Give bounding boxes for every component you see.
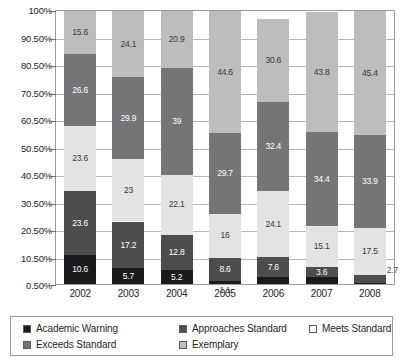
bar-segment[interactable]: 23.6 <box>64 191 96 255</box>
y-axis-tick-mark <box>49 176 56 177</box>
bar-segment-value-label: 44.6 <box>217 68 233 77</box>
x-axis-tick-label: 2004 <box>161 288 193 299</box>
bar-segment-value-label: 15.6 <box>72 28 88 37</box>
bar-segment[interactable]: 30.6 <box>257 19 289 103</box>
legend-swatch-icon <box>23 341 31 349</box>
bar-segment-value-label: 43.8 <box>314 68 330 77</box>
bar-segment[interactable]: 24.1 <box>112 11 144 77</box>
bar-segment[interactable]: 7.6 <box>257 257 289 278</box>
bar-segment[interactable]: 15.6 <box>64 11 96 54</box>
y-axis-tick-label: 100% <box>29 5 53 16</box>
bar-segment[interactable]: 29.9 <box>112 77 144 159</box>
bar-segment-value-label: 33.9 <box>362 177 378 186</box>
y-axis-tick-label: 30.50% <box>21 197 52 208</box>
bar-segment[interactable]: 20.9 <box>161 11 193 68</box>
bar-segment[interactable]: 23.6 <box>64 126 96 190</box>
y-axis-tick-label: 60.50% <box>21 115 52 126</box>
bar-segment[interactable]: 43.8 <box>306 12 338 132</box>
bar-segment[interactable]: 44.6 <box>209 11 241 133</box>
legend-swatch-icon <box>179 325 187 333</box>
bar-segment[interactable] <box>257 277 289 284</box>
legend-item-label: Approaches Standard <box>192 323 287 334</box>
bar-segment-value-label: 5.2 <box>171 273 182 282</box>
bar-segment-value-label: 24.1 <box>121 40 137 49</box>
bar-segment[interactable]: 45.4 <box>354 11 386 135</box>
y-axis-tick-label: 70.50% <box>21 87 52 98</box>
bar-segment[interactable]: 12.8 <box>161 235 193 270</box>
bar-column[interactable]: 5.717.22329.924.1 <box>112 11 144 284</box>
y-axis-tick-mark <box>49 66 56 67</box>
y-axis-tick-mark <box>49 259 56 260</box>
bar-segment-value-label: 17.5 <box>362 247 378 256</box>
x-axis-tick-label: 2008 <box>354 288 386 299</box>
bar-segment-value-label: 32.4 <box>265 142 281 151</box>
bar-segment-value-label: 8.6 <box>219 265 230 274</box>
bar-segment[interactable]: 39 <box>161 68 193 174</box>
bar-segment-value-label: 12.8 <box>169 248 185 257</box>
bar-segment[interactable] <box>306 277 338 284</box>
y-axis-tick-label: 50.50% <box>21 142 52 153</box>
legend-item[interactable]: Exemplary <box>179 339 238 350</box>
bar-segment-value-label: 10.6 <box>72 265 88 274</box>
bar-segment[interactable]: 23 <box>112 159 144 222</box>
bar-segment[interactable]: 17.5 <box>354 228 386 276</box>
bar-segment-value-label: 23.6 <box>72 154 88 163</box>
bar-outside-value-label: 1.1 <box>209 285 241 295</box>
bar-segment-value-label: 16 <box>220 231 229 240</box>
bar-column[interactable]: 5.212.822.13920.9 <box>161 11 193 284</box>
bar-segment[interactable]: 5.2 <box>161 270 193 284</box>
legend-item[interactable]: Approaches Standard <box>179 323 287 334</box>
bar-segment[interactable]: 3.6 <box>306 267 338 277</box>
y-axis-tick-label: 10.50% <box>21 252 52 263</box>
bar-column[interactable]: 17.533.945.4 <box>354 11 386 284</box>
bar-segment[interactable]: 34.4 <box>306 132 338 226</box>
x-axis-tick-label: 2007 <box>306 288 338 299</box>
x-axis-tick-label: 2002 <box>64 288 96 299</box>
bar-segment[interactable]: 16 <box>209 214 241 258</box>
bar-segment-value-label: 39 <box>172 117 181 126</box>
bar-segment[interactable]: 8.6 <box>209 258 241 281</box>
bar-segment[interactable]: 10.6 <box>64 255 96 284</box>
bar-segment[interactable]: 22.1 <box>161 175 193 235</box>
bar-outside-value-label: 2.7 <box>387 265 398 275</box>
bar-column[interactable]: 8.61629.744.6 <box>209 11 241 284</box>
bar-segment[interactable]: 24.1 <box>257 191 289 257</box>
y-axis: 100%90.50%80.50%70.50%60.50%50.50%40.50%… <box>0 10 52 285</box>
y-axis-tick-label: 40.50% <box>21 170 52 181</box>
bar-segment[interactable] <box>354 283 386 284</box>
bar-segment[interactable]: 15.1 <box>306 226 338 267</box>
bar-segment[interactable]: 17.2 <box>112 222 144 269</box>
bar-segment[interactable]: 32.4 <box>257 102 289 190</box>
legend-item-label: Meets Standard <box>322 323 391 334</box>
bar-segment-value-label: 5.7 <box>123 272 134 281</box>
bar-segment-value-label: 20.9 <box>169 35 185 44</box>
y-axis-tick-label: 20.50% <box>21 225 52 236</box>
bar-segment-value-label: 23.6 <box>72 219 88 228</box>
bar-column[interactable]: 7.624.132.430.6 <box>257 11 289 284</box>
bar-segment[interactable]: 33.9 <box>354 135 386 228</box>
bar-column[interactable]: 10.623.623.626.615.6 <box>64 11 96 284</box>
legend-swatch-icon <box>179 341 187 349</box>
legend-item-label: Academic Warning <box>36 323 118 334</box>
bar-segment-value-label: 26.6 <box>72 86 88 95</box>
bar-segment[interactable] <box>354 275 386 282</box>
y-axis-tick-mark <box>49 121 56 122</box>
legend-item[interactable]: Meets Standard <box>309 323 391 334</box>
bar-column[interactable]: 3.615.134.443.8 <box>306 11 338 284</box>
bar-segment-value-label: 30.6 <box>265 56 281 65</box>
bar-segment[interactable]: 29.7 <box>209 133 241 214</box>
y-axis-tick-mark <box>49 149 56 150</box>
bar-series-group: 10.623.623.626.615.65.717.22329.924.15.2… <box>56 11 394 284</box>
bar-segment-value-label: 17.2 <box>121 241 137 250</box>
legend-item[interactable]: Exceeds Standard <box>23 339 116 350</box>
chart-legend: Academic WarningApproaches StandardMeets… <box>10 316 393 356</box>
bar-segment[interactable]: 5.7 <box>112 268 144 284</box>
legend-item[interactable]: Academic Warning <box>23 323 118 334</box>
y-axis-tick-mark <box>49 94 56 95</box>
y-axis-tick-mark <box>49 285 56 286</box>
bar-segment[interactable]: 26.6 <box>64 54 96 127</box>
bar-segment-value-label: 23 <box>124 186 133 195</box>
bar-segment-value-label: 29.7 <box>217 169 233 178</box>
bar-segment[interactable] <box>209 281 241 284</box>
x-axis-tick-label: 2003 <box>112 288 144 299</box>
